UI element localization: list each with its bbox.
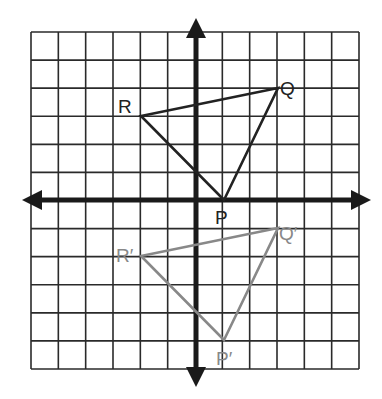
label-p-prime: P′ [216,348,233,369]
label-r: R [118,96,132,117]
arrow-down-icon [186,367,206,387]
arrow-right-icon [351,190,371,210]
label-p: P [215,207,228,228]
label-r-prime: R′ [116,245,134,266]
arrow-left-icon [22,190,42,210]
label-q: Q [280,78,295,99]
coordinate-plane: R Q P R′ Q′ P′ [0,0,382,399]
label-q-prime: Q′ [279,223,298,244]
arrow-up-icon [186,18,206,38]
